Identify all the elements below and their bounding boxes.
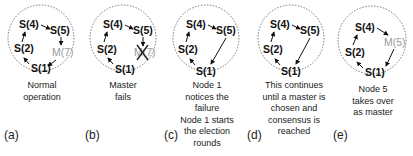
arrow-s1-s2 [190, 59, 195, 65]
arrow-s5-s1 [211, 38, 226, 64]
panel-label-c: (c) [164, 128, 178, 142]
node-s1: S(1) [196, 65, 216, 77]
panel-label-d: (d) [247, 128, 262, 142]
panel-label-b: (b) [85, 128, 100, 142]
node-s2: S(2) [263, 43, 283, 55]
cluster-circle [173, 5, 239, 71]
node-s1: S(1) [115, 63, 135, 75]
node-s5: S(5) [50, 24, 70, 36]
panel-label-a: (a) [4, 128, 19, 142]
arrow-m-s1 [386, 49, 394, 66]
arrow-s2-s4 [22, 32, 25, 42]
arrow-s2-s4 [186, 32, 189, 42]
arrow-s4-s5 [208, 25, 216, 29]
node-s4: S(4) [19, 18, 39, 30]
node-s5: S(5) [133, 24, 153, 36]
caption-b: Master fails [100, 80, 146, 103]
panel-a-ring: S(4) S(5) S(2) S(1) M(7) [8, 5, 74, 74]
node-s1: S(1) [281, 65, 301, 77]
arrow-s4-s5 [292, 25, 300, 29]
panel-e-ring: S(4) M(5) S(2) S(1) [338, 6, 406, 78]
arrow-s5-s1 [296, 38, 310, 64]
arrow-s1-s2 [357, 62, 363, 68]
caption-c: Node 1 notices the failure Node 1 starts… [175, 80, 239, 149]
caption-a: Normal operation [16, 80, 68, 103]
arrow-s4-s5 [41, 25, 50, 29]
panel-label-e: (e) [333, 128, 348, 142]
caption-d: This continues until a master is chosen … [256, 80, 332, 138]
caption-e: Node 5 takes over as master [345, 84, 401, 119]
cluster-circle [258, 5, 324, 71]
arrow-s4-s5 [125, 25, 133, 29]
node-s4: S(4) [186, 18, 206, 30]
arrow-s4-m [377, 28, 388, 35]
arrow-s1-s2 [275, 59, 280, 65]
node-s1: S(1) [365, 66, 385, 78]
arrow-s2-s4 [271, 32, 274, 42]
panel-c-ring: S(4) S(5) S(2) S(1) [173, 5, 239, 77]
node-master: M(7) [52, 46, 74, 58]
node-s4: S(4) [103, 18, 123, 30]
node-s5: S(5) [216, 24, 236, 36]
node-s2: S(2) [14, 42, 34, 54]
node-s4: S(4) [270, 18, 290, 30]
node-s2: S(2) [178, 43, 198, 55]
arrow-s2-s4 [104, 32, 107, 42]
node-s4: S(4) [355, 21, 375, 33]
arrow-s2-s4 [353, 35, 357, 45]
node-new-master: M(5) [384, 36, 406, 48]
node-s2: S(2) [97, 43, 117, 55]
node-s5: S(5) [300, 24, 320, 36]
node-s1: S(1) [31, 62, 51, 74]
arrow-s1-s2 [108, 58, 113, 64]
node-s2: S(2) [345, 46, 365, 58]
panel-b-ring: S(4) S(5) S(2) S(1) M(7) [90, 5, 156, 75]
arrow-s1-s2 [24, 58, 29, 64]
cluster-circle [90, 5, 156, 71]
panel-d-ring: S(4) S(5) S(2) S(1) [258, 5, 324, 77]
